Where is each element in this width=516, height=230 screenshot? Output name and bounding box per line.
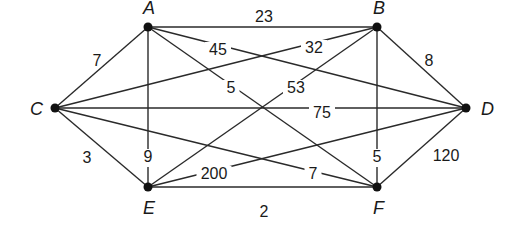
edge-b-c xyxy=(55,27,377,108)
node-dot xyxy=(144,23,153,32)
edge-weight-a-f: 5 xyxy=(223,79,240,98)
node-e: E xyxy=(143,183,156,219)
node-dot xyxy=(373,23,382,32)
edge-weight-label: 200 xyxy=(201,165,228,182)
edges-layer xyxy=(55,27,466,187)
edge-weight-b-c: 32 xyxy=(301,39,327,58)
node-dot xyxy=(51,104,60,113)
edge-weight-label: 75 xyxy=(313,104,331,121)
edge-weight-d-e: 200 xyxy=(197,165,232,184)
node-d: D xyxy=(462,99,495,119)
edge-weight-label: 7 xyxy=(93,52,102,69)
edge-weight-c-e: 3 xyxy=(83,149,92,166)
edge-weight-c-d: 75 xyxy=(309,104,335,123)
edge-weight-a-c: 7 xyxy=(93,52,102,69)
node-dot xyxy=(144,183,153,192)
node-label: D xyxy=(481,99,494,119)
node-c: C xyxy=(30,99,60,119)
edge-weight-label: 3 xyxy=(83,149,92,166)
node-label: E xyxy=(143,198,156,218)
edge-weight-label: 45 xyxy=(209,41,227,58)
edge-weight-b-d: 8 xyxy=(425,52,434,69)
edge-weight-a-e: 9 xyxy=(140,148,157,167)
node-f: F xyxy=(373,183,386,219)
node-b: B xyxy=(373,0,386,32)
edge-weight-c-f: 7 xyxy=(305,165,322,184)
edge-weight-b-f: 5 xyxy=(369,148,386,167)
node-dot xyxy=(373,183,382,192)
edge-weight-a-d: 45 xyxy=(205,41,231,60)
graph-canvas: 237945532853575372001202 ABCDEF xyxy=(0,0,516,230)
graph-diagram: 237945532853575372001202 ABCDEF xyxy=(0,0,516,230)
edge-weight-label: 120 xyxy=(433,147,460,164)
node-label: A xyxy=(142,0,155,18)
edge-weight-label: 53 xyxy=(287,79,305,96)
edge-weight-label: 5 xyxy=(373,148,382,165)
edge-weight-label: 32 xyxy=(305,39,323,56)
node-dot xyxy=(462,104,471,113)
node-label: B xyxy=(373,0,385,18)
edge-weight-a-b: 23 xyxy=(255,8,273,25)
edge-weight-e-f: 2 xyxy=(260,203,269,220)
edge-weight-label: 5 xyxy=(227,79,236,96)
edge-weight-label: 2 xyxy=(260,203,269,220)
edge-weight-label: 7 xyxy=(309,165,318,182)
edge-weight-label: 9 xyxy=(144,148,153,165)
edge-weight-label: 8 xyxy=(425,52,434,69)
edge-weight-label: 23 xyxy=(255,8,273,25)
edge-b-d xyxy=(377,27,466,108)
nodes-layer: ABCDEF xyxy=(30,0,494,218)
node-label: C xyxy=(30,99,44,119)
edge-weight-b-e: 53 xyxy=(283,79,309,98)
edge-weight-d-f: 120 xyxy=(433,147,460,164)
edge-weights-layer: 237945532853575372001202 xyxy=(83,8,460,220)
node-label: F xyxy=(373,198,385,218)
